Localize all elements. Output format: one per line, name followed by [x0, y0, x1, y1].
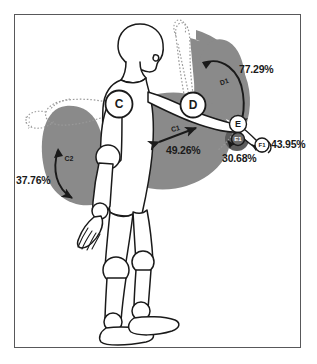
percentage-label-77-29: 77.29%: [239, 63, 273, 75]
percentage-label-37-76: 37.76%: [16, 174, 50, 186]
percentage-label-30-68: 30.68%: [222, 152, 256, 164]
arc-label-c1: C1: [170, 124, 180, 133]
diagram-canvas: CDEE1F1 D1C1C2 77.29%43.95%30.68%49.26%3…: [0, 0, 317, 364]
arc-label-d1: D1: [219, 77, 230, 86]
percentage-label-43-95: 43.95%: [271, 138, 305, 150]
percentage-label-49-26: 49.26%: [166, 144, 200, 156]
arc-label-c2: C2: [65, 155, 74, 162]
